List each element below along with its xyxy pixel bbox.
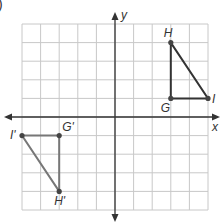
coordinate-plane: x y HGIH'G'I' ) bbox=[0, 0, 223, 224]
vertex-label-g: G bbox=[161, 101, 170, 115]
x-axis-arrow-left-icon bbox=[4, 114, 12, 121]
y-axis-label: y bbox=[120, 8, 128, 22]
vertex-label-h: H bbox=[164, 26, 173, 40]
vertex-dot-i-prime bbox=[19, 133, 24, 138]
vertex-label-i: I bbox=[212, 92, 216, 106]
vertex-label-h-prime: H' bbox=[54, 194, 66, 208]
y-axis-arrow-up-icon bbox=[112, 12, 119, 20]
y-axis-arrow-down-icon bbox=[112, 214, 119, 222]
vertex-dot-h bbox=[168, 40, 173, 45]
problem-marker: ) bbox=[0, 0, 3, 12]
vertex-label-g-prime: G' bbox=[62, 120, 74, 134]
axes: x y bbox=[4, 8, 220, 222]
x-axis-label: x bbox=[211, 120, 219, 134]
vertex-dot-i bbox=[205, 96, 210, 101]
vertex-dot-g bbox=[168, 96, 173, 101]
vertex-dot-g-prime bbox=[57, 133, 62, 138]
vertex-label-i-prime: I' bbox=[10, 128, 16, 142]
vertex-dot-h-prime bbox=[57, 189, 62, 194]
